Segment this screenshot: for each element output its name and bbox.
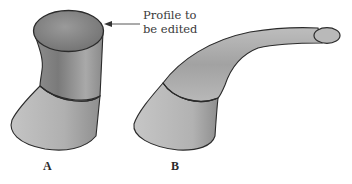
arrowhead-icon (104, 21, 112, 27)
label-a: A (43, 159, 52, 174)
callout-arrow (104, 21, 140, 27)
shape-b (134, 28, 340, 150)
shape-a (11, 11, 103, 151)
callout-line-1: Profile to (143, 8, 197, 22)
callout-text: Profile to be edited (143, 8, 197, 36)
label-b: B (171, 159, 179, 174)
callout-line-2: be edited (143, 22, 197, 36)
shape-b-upper-surface (163, 28, 322, 102)
profile-ellipse-a (34, 11, 104, 52)
profile-ellipse-b (314, 28, 340, 44)
